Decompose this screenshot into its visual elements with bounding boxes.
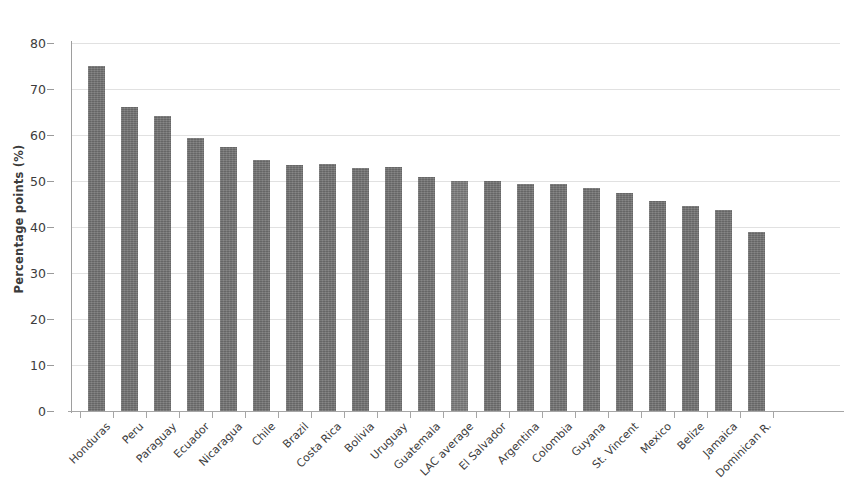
x-tick-mark — [575, 412, 576, 418]
x-tick-mark — [245, 412, 246, 418]
gridline-70 — [72, 89, 840, 90]
y-tick-label-80: 80 — [6, 36, 46, 51]
y-tick-label-60: 60 — [6, 128, 46, 143]
bar — [220, 147, 237, 411]
bar-chart: Percentage points (%) 01020304050607080 … — [0, 0, 864, 496]
y-tick-mark-40 — [47, 227, 54, 228]
y-tick-label-50: 50 — [6, 174, 46, 189]
x-tick-mark — [113, 412, 114, 418]
y-tick-mark-70 — [47, 89, 54, 90]
plot-area — [72, 43, 840, 411]
gridline-60 — [72, 135, 840, 136]
x-tick-mark — [443, 412, 444, 418]
bar — [154, 116, 171, 411]
bar — [319, 164, 336, 411]
x-tick-mark — [476, 412, 477, 418]
gridline-80 — [72, 43, 840, 44]
bar — [484, 181, 501, 411]
y-tick-mark-10 — [47, 365, 54, 366]
bar — [286, 165, 303, 411]
bar — [352, 168, 369, 411]
bar — [682, 206, 699, 411]
x-tick-mark — [344, 412, 345, 418]
x-tick-mark — [773, 412, 774, 418]
bar — [121, 107, 138, 411]
bar — [88, 66, 105, 411]
y-tick-label-20: 20 — [6, 312, 46, 327]
bar — [583, 188, 600, 411]
bar — [187, 138, 204, 411]
bar — [451, 181, 468, 411]
bar — [253, 160, 270, 411]
bar — [748, 232, 765, 411]
y-tick-label-40: 40 — [6, 220, 46, 235]
x-axis-line — [68, 411, 844, 412]
y-tick-label-70: 70 — [6, 82, 46, 97]
bar — [616, 193, 633, 411]
y-tick-label-0: 0 — [6, 404, 46, 419]
x-tick-mark — [707, 412, 708, 418]
y-tick-mark-80 — [47, 43, 54, 44]
y-tick-label-10: 10 — [6, 358, 46, 373]
bar — [550, 184, 567, 411]
x-tick-label-text: Brazil — [280, 420, 311, 451]
bar — [517, 184, 534, 411]
x-tick-mark — [608, 412, 609, 418]
x-tick-mark — [740, 412, 741, 418]
y-tick-mark-50 — [47, 181, 54, 182]
y-axis: 01020304050607080 — [0, 0, 72, 496]
x-tick-mark — [212, 412, 213, 418]
x-tick-mark — [179, 412, 180, 418]
y-tick-label-30: 30 — [6, 266, 46, 281]
x-tick-mark — [278, 412, 279, 418]
x-tick-mark — [80, 412, 81, 418]
bar — [649, 201, 666, 411]
x-tick-mark — [641, 412, 642, 418]
bar — [418, 177, 435, 411]
y-tick-mark-0 — [47, 411, 54, 412]
x-tick-label-text: Chile — [250, 420, 279, 449]
x-tick-mark — [509, 412, 510, 418]
bar — [385, 167, 402, 411]
x-tick-mark — [146, 412, 147, 418]
y-tick-mark-60 — [47, 135, 54, 136]
y-tick-mark-20 — [47, 319, 54, 320]
x-tick-mark — [311, 412, 312, 418]
y-tick-mark-30 — [47, 273, 54, 274]
x-tick-label-text: Peru — [120, 420, 147, 447]
x-tick-mark — [674, 412, 675, 418]
x-tick-mark — [377, 412, 378, 418]
x-tick-mark — [410, 412, 411, 418]
bar — [715, 210, 732, 411]
x-tick-mark — [542, 412, 543, 418]
